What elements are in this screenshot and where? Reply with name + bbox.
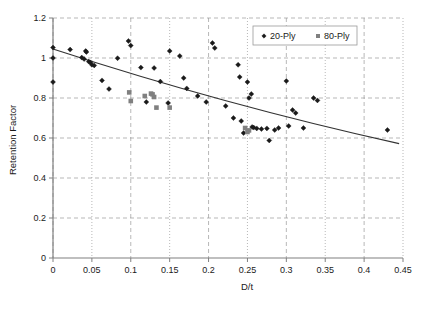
chart-legend: 20-Ply80-Ply [253,26,357,45]
x-tick-label: 0 [50,265,55,275]
x-tick-label: 0.1 [125,265,138,275]
x-tick-label: 0.45 [394,265,412,275]
y-axis-title: Retention Factor [7,105,18,175]
y-tick-label: 0.2 [33,213,46,223]
x-tick-label: 0.2 [202,265,215,275]
data-point-80ply [127,90,132,95]
y-tick-label: 1.2 [33,13,46,23]
scatter-chart: 00.050.10.150.20.250.30.350.40.4500.20.4… [0,0,430,310]
y-tick-label: 1 [41,53,46,63]
x-tick-label: 0.25 [239,265,257,275]
legend-marker-80ply [316,34,320,38]
plot-canvas: 00.050.10.150.20.250.30.350.40.4500.20.4… [0,0,430,310]
data-point-80ply [154,105,159,110]
data-point-80ply [128,99,133,104]
x-tick-label: 0.15 [161,265,179,275]
y-tick-label: 0.6 [33,133,46,143]
x-tick-label: 0.4 [358,265,371,275]
y-tick-label: 0.8 [33,93,46,103]
x-tick-label: 0.35 [316,265,334,275]
data-point-80ply [152,95,157,100]
data-point-80ply [247,128,252,133]
x-tick-label: 0.05 [83,265,101,275]
x-axis-title: D/t [241,281,254,292]
y-tick-label: 0 [41,253,46,263]
x-tick-label: 0.3 [280,265,293,275]
y-tick-label: 0.4 [33,173,46,183]
data-point-80ply [167,105,172,110]
data-point-80ply [142,94,147,99]
legend-label: 20-Ply [270,31,296,41]
legend-label: 80-Ply [324,31,350,41]
